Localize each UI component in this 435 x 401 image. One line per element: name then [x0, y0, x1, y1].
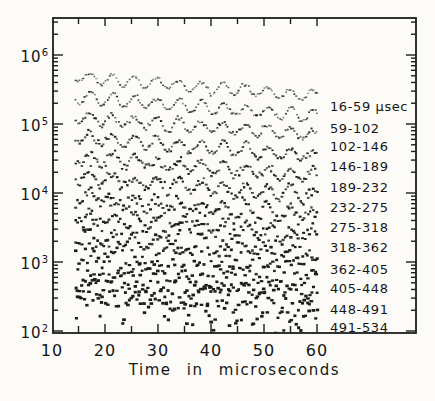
trace-146-189 — [74, 129, 318, 162]
y-tick-label-1e5: 105 — [14, 114, 48, 134]
y-tick-label-1e2: 102 — [14, 321, 48, 341]
series-label-11: 491-534 — [330, 320, 422, 335]
series-label-2: 102-146 — [330, 139, 422, 154]
x-tick-label-10: 10 — [34, 341, 70, 360]
x-tick-label-50: 50 — [246, 341, 282, 360]
trace-318-362 — [75, 205, 319, 248]
trace-448-491 — [75, 265, 319, 315]
trace-232-275 — [75, 165, 319, 206]
series-label-0: 16-59 μsec — [330, 99, 422, 114]
y-tick-label-1e6: 106 — [14, 45, 48, 65]
series-label-7: 318-362 — [330, 240, 422, 255]
trace-16-59 — [75, 73, 318, 101]
y-tick-label-1e3: 103 — [14, 252, 48, 272]
series-label-10: 448-491 — [330, 302, 422, 317]
x-tick-label-60: 60 — [299, 341, 335, 360]
series-label-5: 232-275 — [330, 200, 422, 215]
x-axis-title: Time in microseconds — [53, 361, 416, 379]
x-tick-label-40: 40 — [193, 341, 229, 360]
series-label-8: 362-405 — [330, 262, 422, 277]
x-tick-label-30: 30 — [140, 341, 176, 360]
series-label-1: 59-102 — [330, 121, 422, 136]
trace-491-534 — [75, 278, 319, 347]
data-traces — [74, 73, 319, 347]
y-tick-label-1e4: 104 — [14, 183, 48, 203]
series-label-6: 275-318 — [330, 220, 422, 235]
x-tick-label-20: 20 — [87, 341, 123, 360]
series-label-9: 405-448 — [330, 281, 422, 296]
scanned-figure: 102103104105106 102030405060 16-59 μsec5… — [0, 0, 435, 401]
series-label-4: 189-232 — [330, 180, 422, 195]
trace-102-146 — [75, 112, 318, 140]
series-label-3: 146-189 — [330, 159, 422, 174]
